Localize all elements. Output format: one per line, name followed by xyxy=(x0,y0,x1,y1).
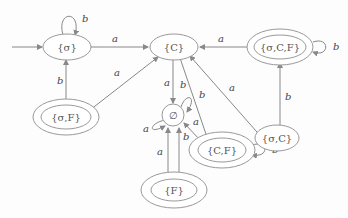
edge-label: b xyxy=(199,89,205,100)
edge-label: a xyxy=(164,77,170,88)
edge-sigmaCF-loop-b xyxy=(313,41,326,53)
edge-sigmaF-C-a xyxy=(90,57,158,110)
node-sigma: {σ} xyxy=(43,34,91,60)
node-sigmaCF: {σ,C,F} xyxy=(247,29,313,65)
node-label: {F} xyxy=(164,185,184,196)
edge-label: b xyxy=(82,13,88,24)
diagram-svg: b a a b b a a b a b b a a b a b {σ} { xyxy=(0,0,348,218)
node-sigmaC: {σ,C} xyxy=(255,125,299,151)
edge-label: a xyxy=(143,123,149,134)
edge-label: a xyxy=(157,146,163,157)
node-label: {σ,C,F} xyxy=(260,42,300,53)
edge-label: b xyxy=(333,41,339,52)
node-CF: {C,F} xyxy=(189,132,255,168)
edge-label: a xyxy=(112,33,118,44)
edge-label: b xyxy=(180,79,186,90)
node-label: {C} xyxy=(164,42,184,53)
edge-label: a xyxy=(193,116,199,127)
node-label: ∅ xyxy=(169,110,178,121)
node-label: {σ,F} xyxy=(51,112,81,123)
node-sigmaF: {σ,F} xyxy=(33,99,99,135)
node-empty: ∅ xyxy=(162,104,184,126)
node-label: {σ} xyxy=(57,42,77,53)
edge-label: b xyxy=(57,75,63,86)
node-label: {C,F} xyxy=(207,145,237,156)
edge-label: a xyxy=(218,33,224,44)
edge-label: a xyxy=(114,67,120,78)
edge-sigma-loop-b xyxy=(62,16,76,35)
edge-label: a xyxy=(229,82,235,93)
node-label: {σ,C} xyxy=(262,133,292,144)
edge-label: b xyxy=(285,91,291,102)
node-F: {F} xyxy=(141,172,207,208)
node-C: {C} xyxy=(150,34,198,60)
automaton-diagram: b a a b b a a b a b b a a b a b {σ} { xyxy=(0,0,348,218)
edge-label: b xyxy=(183,131,189,142)
